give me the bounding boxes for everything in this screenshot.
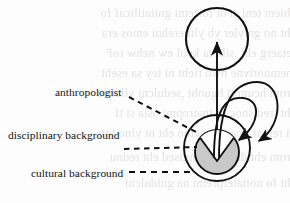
label-disciplinary-background: disciplinary background [8,129,120,141]
label-anthropologist: anthropologist [55,86,122,98]
figure-page: ebiem teni si ot roiretni gnitatilicaf f… [0,0,290,203]
label-cultural-background: cultural background [31,167,123,179]
leader-disciplinary [124,147,197,149]
leader-anthropologist [129,97,198,133]
